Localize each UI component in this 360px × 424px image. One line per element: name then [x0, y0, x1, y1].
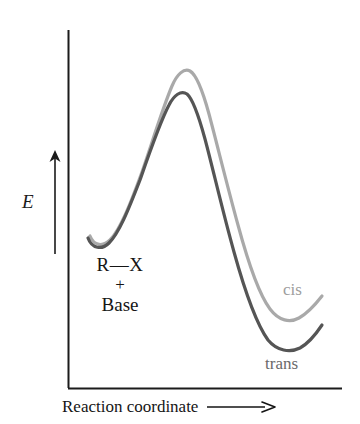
x-axis-label-group: Reaction coordinate	[62, 398, 279, 416]
y-axis-label: E	[22, 192, 34, 211]
x-axis-label-text: Reaction coordinate	[62, 397, 198, 416]
reaction-energy-diagram: Formation in E2 E R—X + Base cis trans R…	[0, 0, 360, 424]
reactants-line-3: Base	[72, 294, 168, 315]
energy-direction-arrow	[50, 150, 61, 254]
plot-area	[0, 0, 360, 424]
x-axis-direction-arrow-icon	[207, 401, 277, 413]
cis-series-label: cis	[283, 281, 302, 298]
reactants-label: R—X + Base	[72, 254, 168, 316]
reactants-line-1: R—X	[72, 254, 168, 275]
reactants-line-2: +	[72, 275, 168, 294]
trans-series-label: trans	[265, 355, 298, 372]
